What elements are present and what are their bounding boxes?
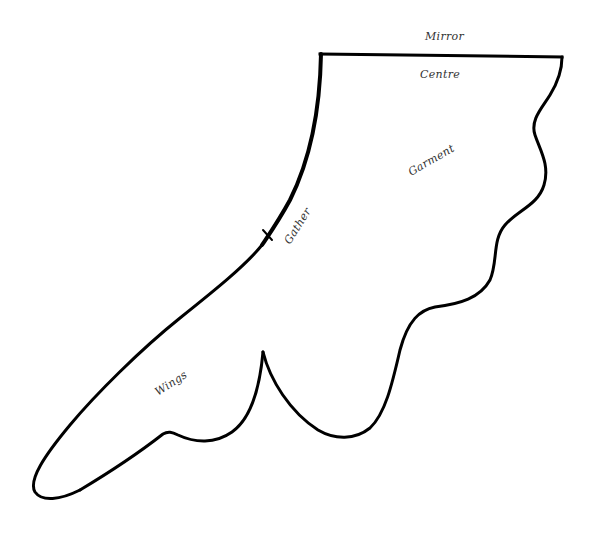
centre-label: Centre <box>420 68 460 81</box>
gather-edge <box>262 54 321 245</box>
wings-label: Wings <box>153 368 190 398</box>
garment-label: Garment <box>406 142 457 179</box>
pattern-diagram: Mirror Centre Garment Gather Wings <box>0 0 595 536</box>
wing-outer-edge <box>33 245 262 499</box>
gather-label: Gather <box>282 205 315 247</box>
wing-lower-edge <box>80 352 263 490</box>
mirror-label: Mirror <box>424 30 464 43</box>
mirror-fold-edge <box>320 54 562 57</box>
scalloped-edge <box>263 57 562 437</box>
